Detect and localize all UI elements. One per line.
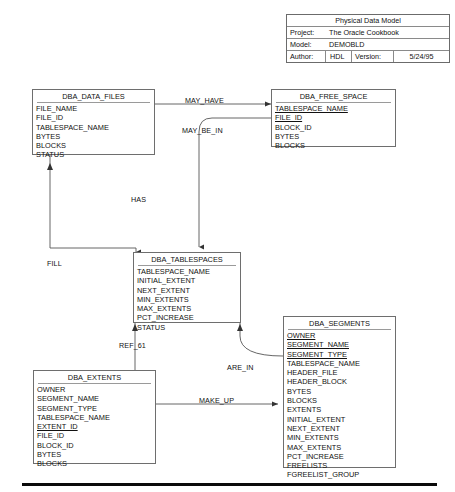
attribute: BLOCK_ID bbox=[37, 441, 155, 450]
attribute: TABLESPACE_NAME bbox=[37, 413, 155, 422]
attribute: BLOCKS bbox=[275, 141, 395, 150]
author-label: Author: bbox=[287, 51, 325, 62]
attribute: NEXT_EXTENT bbox=[137, 286, 240, 295]
attribute: HEADER_FILE bbox=[287, 368, 395, 377]
connector-are-in bbox=[237, 322, 283, 356]
relationship-label-ref-61: REF_61 bbox=[119, 341, 146, 350]
attribute: NEXT_EXTENT bbox=[287, 424, 395, 433]
attribute: BLOCKS bbox=[287, 396, 395, 405]
title-block-row-project: Project: The Oracle Cookbook bbox=[287, 27, 449, 39]
version-value: 5/24/95 bbox=[393, 51, 449, 62]
attribute: FREELISTS bbox=[287, 461, 395, 470]
attribute-list: OWNER SEGMENT_NAME SEGMENT_TYPE TABLESPA… bbox=[284, 330, 395, 482]
attribute-key: SEGMENT_TYPE bbox=[287, 350, 395, 359]
attribute: INITIAL_EXTENT bbox=[137, 276, 240, 285]
entity-title: DBA_SEGMENTS bbox=[288, 318, 391, 330]
attribute-key: EXTENT_ID bbox=[37, 422, 155, 431]
project-label: Project: bbox=[287, 27, 325, 38]
attribute-key: OWNER bbox=[287, 331, 395, 340]
entity-title: DBA_DATA_FILES bbox=[37, 91, 150, 103]
model-label: Model: bbox=[287, 39, 325, 50]
attribute: TABLESPACE_NAME bbox=[137, 267, 240, 276]
connector-has-fill bbox=[47, 155, 136, 252]
relationship-label-fill: FILL bbox=[47, 259, 62, 268]
footer-rule bbox=[22, 483, 437, 486]
attribute-key: FILE_ID bbox=[275, 113, 395, 122]
entity-dba-segments[interactable]: DBA_SEGMENTS OWNER SEGMENT_NAME SEGMENT_… bbox=[283, 316, 396, 468]
connector-may-be-in bbox=[199, 118, 271, 247]
relationship-label-are-in: ARE_IN bbox=[227, 363, 254, 372]
attribute: MIN_EXTENTS bbox=[137, 295, 240, 304]
attribute: BYTES bbox=[36, 132, 154, 141]
attribute-list: FILE_NAME FILE_ID TABLESPACE_NAME BYTES … bbox=[33, 103, 154, 162]
attribute-key: TABLESPACE_NAME bbox=[275, 104, 395, 113]
attribute-list: OWNER SEGMENT_NAME SEGMENT_TYPE TABLESPA… bbox=[34, 384, 155, 471]
attribute: BLOCK_ID bbox=[275, 123, 395, 132]
attribute: BYTES bbox=[37, 450, 155, 459]
attribute: SEGMENT_NAME bbox=[37, 394, 155, 403]
title-block-row-model: Model: DEMOBLD bbox=[287, 39, 449, 51]
attribute-key: SEGMENT_NAME bbox=[287, 340, 395, 349]
attribute: MIN_EXTENTS bbox=[287, 433, 395, 442]
entity-dba-free-space[interactable]: DBA_FREE_SPACE TABLESPACE_NAME FILE_ID B… bbox=[271, 89, 396, 147]
attribute: BYTES bbox=[275, 132, 395, 141]
relationship-label-may-have: MAY_HAVE bbox=[185, 96, 224, 105]
attribute: EXTENTS bbox=[287, 405, 395, 414]
attribute: PCT_INCREASE bbox=[137, 313, 240, 322]
er-diagram-canvas: Physical Data Model Project: The Oracle … bbox=[0, 0, 455, 492]
version-label: Version: bbox=[351, 51, 393, 62]
entity-title: DBA_FREE_SPACE bbox=[276, 91, 391, 103]
attribute-list: TABLESPACE_NAME FILE_ID BLOCK_ID BYTES B… bbox=[272, 103, 395, 152]
attribute: STATUS bbox=[137, 323, 240, 332]
entity-dba-data-files[interactable]: DBA_DATA_FILES FILE_NAME FILE_ID TABLESP… bbox=[32, 89, 155, 155]
attribute: FILE_NAME bbox=[36, 104, 154, 113]
attribute: FILE_ID bbox=[37, 431, 155, 440]
entity-dba-tablespaces[interactable]: DBA_TABLESPACES TABLESPACE_NAME INITIAL_… bbox=[133, 252, 241, 323]
attribute: PCT_INCREASE bbox=[287, 452, 395, 461]
title-block: Physical Data Model Project: The Oracle … bbox=[286, 14, 450, 63]
attribute: MAX_EXTENTS bbox=[287, 443, 395, 452]
attribute: OWNER bbox=[37, 385, 155, 394]
model-value: DEMOBLD bbox=[325, 39, 449, 50]
title-block-heading: Physical Data Model bbox=[287, 15, 449, 27]
attribute-list: TABLESPACE_NAME INITIAL_EXTENT NEXT_EXTE… bbox=[134, 266, 240, 334]
author-value: HDL bbox=[325, 51, 351, 62]
attribute: BYTES bbox=[287, 387, 395, 396]
relationship-label-has: HAS bbox=[131, 195, 146, 204]
title-block-row-author: Author: HDL Version: 5/24/95 bbox=[287, 51, 449, 62]
attribute: MAX_EXTENTS bbox=[137, 304, 240, 313]
attribute: BLOCKS bbox=[37, 459, 155, 468]
project-value: The Oracle Cookbook bbox=[325, 27, 449, 38]
attribute: STATUS bbox=[36, 150, 154, 159]
attribute: INITIAL_EXTENT bbox=[287, 415, 395, 424]
entity-title: DBA_EXTENTS bbox=[38, 372, 151, 384]
attribute: SEGMENT_TYPE bbox=[37, 404, 155, 413]
attribute: FILE_ID bbox=[36, 113, 154, 122]
attribute: TABLESPACE_NAME bbox=[287, 359, 395, 368]
entity-title: DBA_TABLESPACES bbox=[138, 254, 236, 266]
attribute: FGREELIST_GROUP bbox=[287, 470, 395, 479]
relationship-label-make-up: MAKE_UP bbox=[199, 396, 234, 405]
attribute: HEADER_BLOCK bbox=[287, 377, 395, 386]
attribute: BLOCKS bbox=[36, 141, 154, 150]
relationship-label-may-be-in: MAY_BE_IN bbox=[182, 126, 223, 135]
attribute: TABLESPACE_NAME bbox=[36, 123, 154, 132]
entity-dba-extents[interactable]: DBA_EXTENTS OWNER SEGMENT_NAME SEGMENT_T… bbox=[33, 370, 156, 464]
